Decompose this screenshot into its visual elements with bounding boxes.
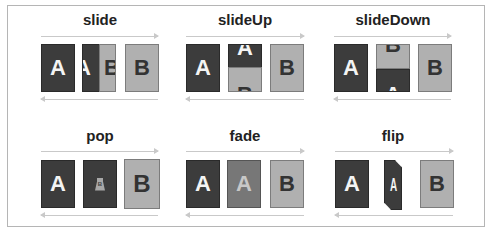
panel-title: slideUp [180,11,310,28]
transition-card-flipping: A [384,160,402,210]
page-a-card: A [335,160,369,208]
page-a-card: A [334,44,368,92]
transition-card-incoming: B [99,44,116,92]
page-b-card: B [124,159,160,209]
page-a-card: A [186,44,220,92]
forward-arrow-icon [186,151,304,152]
page-b-card: B [418,44,452,92]
back-arrow-icon [41,215,158,216]
transition-card-incoming: B [376,44,410,69]
forward-arrow-icon [41,36,158,37]
back-arrow-icon [186,99,304,100]
forward-arrow-icon [186,36,304,37]
forward-arrow-icon [335,151,453,152]
page-a-card: A [41,44,75,92]
back-arrow-icon [334,99,451,100]
page-b-card: B [270,44,304,92]
popping-page-b: B [95,178,105,191]
page-b-card: B [270,160,304,208]
transition-card-outgoing: A [376,69,410,92]
panel-title: slideDown [328,11,458,28]
back-arrow-icon [335,215,453,216]
transition-card-outgoing: A [228,44,262,68]
transition-card: A [227,160,261,208]
back-arrow-icon [186,215,304,216]
panel-title: flip [328,127,458,144]
page-b-card: B [125,44,159,92]
transition-card-incoming: B [228,67,262,92]
panel-title: fade [180,127,310,144]
page-b-card: B [420,160,454,208]
forward-arrow-icon [334,36,451,37]
back-arrow-icon [41,99,158,100]
page-a-card: A [41,160,75,208]
panel-title: slide [35,11,165,28]
transition-card: B [83,160,117,208]
forward-arrow-icon [41,151,158,152]
panel-title: pop [35,127,165,144]
page-a-card: A [186,160,220,208]
